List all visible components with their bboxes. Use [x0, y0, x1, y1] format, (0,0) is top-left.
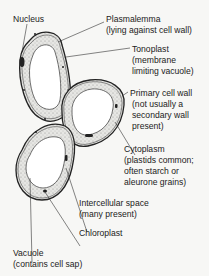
- label-cytoplasm-note-3: aleurone grains): [124, 177, 186, 187]
- label-cytoplasm-note-1: (plastids common;: [124, 155, 194, 165]
- label-tonoplast-note-1: (membrane: [132, 55, 176, 65]
- label-chloroplast: Chloroplast: [79, 228, 122, 238]
- label-tonoplast: Tonoplast: [132, 44, 169, 54]
- label-intercellular-note: (many present): [79, 209, 137, 219]
- label-plasmalemma: Plasmalemma: [106, 14, 160, 24]
- label-vacuole-note: (contains cell sap): [13, 259, 82, 269]
- label-cytoplasm: Cytoplasm: [124, 144, 165, 154]
- label-tonoplast-note-2: limiting vacuole): [132, 66, 194, 76]
- label-vacuole: Vacuole: [13, 248, 43, 258]
- label-nucleus: Nucleus: [13, 14, 44, 24]
- label-plasmalemma-note: (lying against cell wall): [106, 25, 192, 35]
- label-primary-wall-note-2: secondary wall: [132, 110, 189, 120]
- label-cytoplasm-note-2: often starch or: [124, 166, 179, 176]
- label-primary-wall: Primary cell wall: [130, 88, 192, 98]
- label-primary-wall-note-3: present): [132, 121, 164, 131]
- nucleus-shape: [20, 57, 25, 67]
- label-primary-wall-note-1: (not usually a: [132, 99, 183, 109]
- cell-bottom: [16, 124, 74, 200]
- label-intercellular: Intercellular space: [79, 198, 149, 208]
